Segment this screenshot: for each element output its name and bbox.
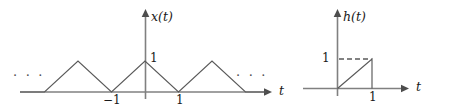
- panel-x-of-t: [20, 9, 272, 99]
- x-panel-axis-label-t: t: [279, 85, 284, 98]
- x-panel-triangle-wave: [20, 61, 266, 92]
- x-panel-x-tick-1: 1: [176, 94, 184, 106]
- x-panel-signal-label: x(t): [151, 11, 173, 24]
- x-panel-x-tick-minus-1: −1: [103, 94, 121, 106]
- h-panel-x-tick-1: 1: [369, 91, 377, 103]
- h-panel-ramp-signal: [338, 59, 373, 89]
- x-panel-y-axis-arrowhead: [142, 9, 150, 17]
- h-panel-signal-label: h(t): [343, 11, 366, 24]
- h-panel-axis-label-t: t: [416, 81, 421, 94]
- x-panel-ellipsis-left: · · ·: [13, 69, 45, 82]
- figure-container: x(t) 1 −1 1 t · · · · · · h(t) 1 1 t: [0, 0, 451, 111]
- x-panel-ellipsis-right: · · ·: [236, 69, 268, 82]
- h-panel-y-axis-arrowhead: [334, 9, 342, 17]
- plot-canvas: [0, 0, 451, 111]
- x-panel-y-tick-1: 1: [150, 52, 158, 64]
- h-panel-t-axis-arrowhead: [401, 85, 409, 93]
- h-panel-y-tick-1: 1: [322, 52, 330, 64]
